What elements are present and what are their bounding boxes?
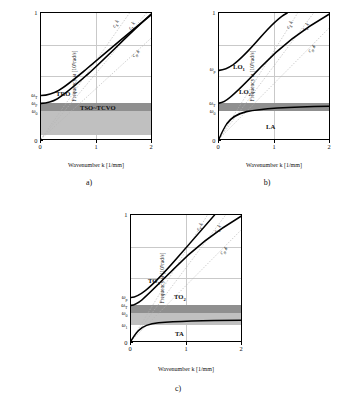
- xtick-1-c: 1: [184, 345, 187, 352]
- panel-a: 1 0 ωT ωF ω0 0 1 2 Frequency ω [109 rad/…: [0, 0, 178, 200]
- y-axis-label-c: Frequency ω [109 rad/s]: [98, 214, 226, 342]
- panel-b: 1 0 ωp ωT ω0 0 1 2 Frequency ω [109 rad/…: [178, 0, 356, 200]
- y-axis-label-a: Frequency ω [109 rad/s]: [10, 12, 138, 140]
- xtick-1-b: 1: [272, 143, 275, 150]
- xtick-2-c: 2: [239, 345, 242, 352]
- plot-area-c: 1 0 ωp ωT ω0 ω1 0 1 2 Frequency ω [109 r…: [130, 214, 242, 342]
- curve-label-TRO: TRO: [56, 90, 70, 97]
- x-axis-label-b: Wavenumber k [1/mm]: [204, 162, 344, 168]
- xtick-2-b: 2: [327, 143, 330, 150]
- x-axis-label-c: Wavenumber k [1/mm]: [116, 366, 256, 372]
- xtick-0-b: 0: [216, 143, 219, 150]
- panel-c: 1 0 ωp ωT ω0 ω1 0 1 2 Frequency ω [109 r…: [88, 200, 268, 406]
- plot-area-a: 1 0 ωT ωF ω0 0 1 2 Frequency ω [109 rad/…: [40, 12, 152, 140]
- xtick-2-a: 2: [149, 143, 152, 150]
- figure-container: 1 0 ωT ωF ω0 0 1 2 Frequency ω [109 rad/…: [0, 0, 356, 406]
- xtick-0-a: 0: [38, 143, 41, 150]
- x-axis-label-a: Wavenumber k [1/mm]: [26, 162, 166, 168]
- panel-caption-a: a): [0, 178, 178, 187]
- curve-label-TSO-TCVO: TSO~TCVO: [80, 104, 116, 111]
- curve-label-LO1: LO1: [233, 63, 245, 72]
- curve-label-TA: TA: [175, 330, 184, 339]
- y-axis-label-b: Frequency ω [109 rad/s]: [188, 12, 316, 140]
- curve-label-TO1: TO1: [148, 277, 160, 286]
- curve-label-LA: LA: [266, 123, 275, 132]
- xtick-0-c: 0: [128, 345, 131, 352]
- curve-label-TO2: TO2: [174, 293, 186, 302]
- xtick-1-a: 1: [94, 143, 97, 150]
- curve-label-LO2: LO2: [239, 88, 251, 97]
- plot-area-b: 1 0 ωp ωT ω0 0 1 2 Frequency ω [109 rad/…: [218, 12, 330, 140]
- panel-caption-c: c): [88, 384, 268, 393]
- panel-caption-b: b): [178, 178, 356, 187]
